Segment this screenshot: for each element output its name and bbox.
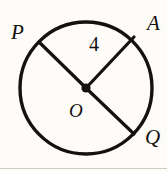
geometry-canvas (0, 0, 167, 171)
center-point-marker (81, 83, 90, 92)
vertex-label-a: A (147, 13, 160, 34)
vertex-label-q: Q (145, 127, 160, 148)
radius-segment-OQ (86, 88, 134, 134)
vertex-label-p: P (11, 22, 24, 43)
radius-measure-label: 4 (89, 34, 99, 54)
radius-segment-OP (39, 42, 86, 88)
circle-diagram-figure: P A Q O 4 (0, 0, 167, 171)
baseline-divider (0, 168, 167, 169)
center-label-o: O (69, 101, 83, 120)
